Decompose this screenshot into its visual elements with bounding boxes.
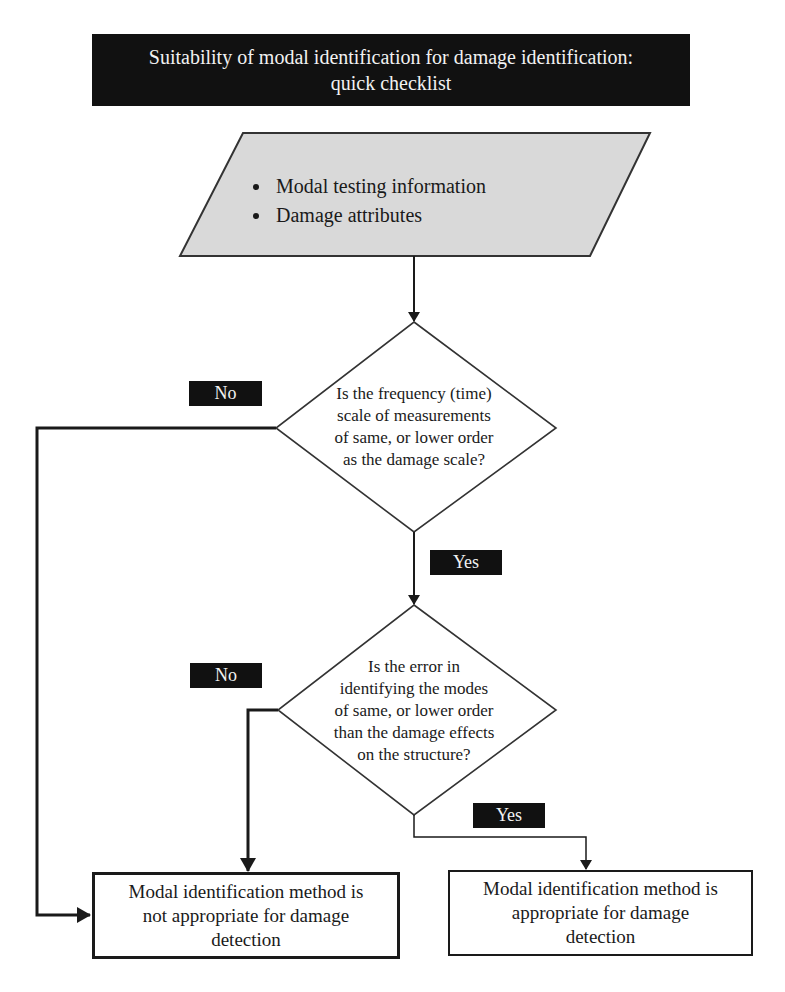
input-item: Modal testing information bbox=[272, 172, 600, 201]
question-line: on the structure? bbox=[296, 744, 532, 766]
connector-decision2-no bbox=[248, 710, 278, 871]
flowchart-canvas bbox=[0, 0, 785, 992]
outcome-line: appropriate for damage bbox=[483, 901, 718, 925]
question-line: as the damage scale? bbox=[296, 449, 532, 471]
question-line: of same, or lower order bbox=[296, 427, 532, 449]
yes-badge-2: Yes bbox=[473, 803, 545, 828]
input-item: Damage attributes bbox=[272, 201, 600, 230]
outcome-line: Modal identification method is bbox=[129, 880, 364, 904]
question-line: identifying the modes bbox=[296, 678, 532, 700]
question-line: Is the error in bbox=[296, 656, 532, 678]
decision-1-question: Is the frequency (time) scale of measure… bbox=[296, 383, 532, 471]
yes-badge-1: Yes bbox=[430, 550, 502, 575]
outcome-line: not appropriate for damage bbox=[129, 904, 364, 928]
outcome-not-appropriate: Modal identification method is not appro… bbox=[92, 872, 400, 959]
question-line: Is the frequency (time) bbox=[296, 383, 532, 405]
question-line: than the damage effects bbox=[296, 722, 532, 744]
no-badge-1: No bbox=[189, 381, 262, 406]
outcome-line: Modal identification method is bbox=[483, 877, 718, 901]
input-list: Modal testing information Damage attribu… bbox=[240, 172, 600, 230]
decision-2-question: Is the error in identifying the modes of… bbox=[296, 656, 532, 766]
question-line: of same, or lower order bbox=[296, 700, 532, 722]
outcome-line: detection bbox=[483, 925, 718, 949]
no-badge-2: No bbox=[190, 663, 262, 688]
outcome-line: detection bbox=[129, 928, 364, 952]
outcome-appropriate: Modal identification method is appropria… bbox=[448, 870, 753, 956]
input-content: Modal testing information Damage attribu… bbox=[240, 172, 600, 230]
question-line: scale of measurements bbox=[296, 405, 532, 427]
